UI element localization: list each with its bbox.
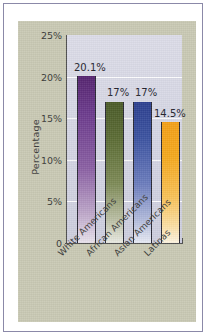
x-axis-labels: White Americans African Americans Asian …	[18, 21, 196, 322]
bar-chart: Percentage 25% 20% 15% 10% 5% 0	[18, 21, 196, 322]
x-label-latinas: Latinas	[142, 228, 173, 259]
outer-border: Percentage 25% 20% 15% 10% 5% 0	[3, 3, 203, 332]
screenshot-frame: Percentage 25% 20% 15% 10% 5% 0	[0, 0, 206, 335]
